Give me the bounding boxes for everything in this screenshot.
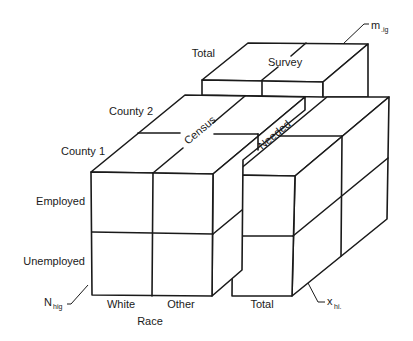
m-ig-leader xyxy=(343,24,369,44)
x-hi-leader xyxy=(308,283,325,302)
county-2-label: County 2 xyxy=(109,105,153,117)
n-hig-annotation: N hig xyxy=(44,285,88,311)
white-label: White xyxy=(107,298,135,310)
n-hig-sub: hig xyxy=(53,303,62,311)
county-1-label: County 1 xyxy=(61,145,105,157)
m-ig-annotation: m .ig xyxy=(343,19,389,44)
census-front-col-divider xyxy=(152,173,153,296)
n-hig-leader xyxy=(67,285,88,304)
m-ig-sub: .ig xyxy=(381,26,389,34)
survey-block xyxy=(202,43,368,97)
survey-row-label-total: Total xyxy=(192,47,215,59)
n-hig-main: N xyxy=(44,296,52,308)
needed-side-county-divider xyxy=(341,136,342,256)
employed-label: Employed xyxy=(36,195,85,207)
race-axis-title: Race xyxy=(137,315,163,327)
unemployed-label: Unemployed xyxy=(23,255,85,267)
m-ig-main: m xyxy=(371,19,380,31)
other-label: Other xyxy=(167,298,195,310)
x-hi-annotation: x hi. xyxy=(308,283,341,310)
x-hi-main: x xyxy=(327,295,333,307)
survey-label: Survey xyxy=(268,56,303,68)
x-hi-sub: hi. xyxy=(334,303,341,310)
block-diagram: Survey Total Census Needed County 2 Coun… xyxy=(0,0,413,341)
total-column-label: Total xyxy=(250,298,273,310)
